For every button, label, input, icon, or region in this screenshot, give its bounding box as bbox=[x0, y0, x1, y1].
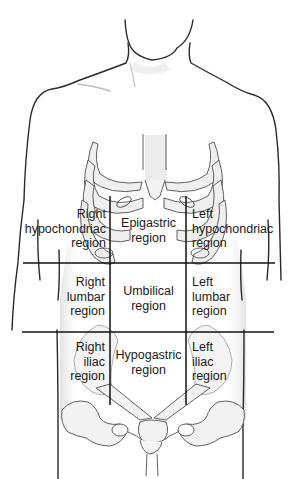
abdominal-regions-diagram: Right hypochondriac region Epigastric re… bbox=[0, 0, 307, 479]
label-umbilical: Umbilical region bbox=[111, 284, 186, 313]
label-left-iliac: Left iliac region bbox=[192, 340, 262, 384]
label-epigastric: Epigastric region bbox=[111, 216, 186, 245]
label-line: Umbilical bbox=[111, 284, 186, 299]
label-line: region bbox=[40, 369, 105, 384]
label-line: lumbar bbox=[192, 290, 262, 305]
label-line: region bbox=[111, 299, 186, 314]
label-line: region bbox=[192, 304, 262, 319]
label-left-lumbar: Left lumbar region bbox=[192, 275, 262, 319]
label-line: Left bbox=[192, 207, 302, 222]
label-line: region bbox=[111, 363, 186, 378]
label-line: region bbox=[40, 304, 105, 319]
label-line: hypochondriac bbox=[14, 222, 106, 237]
label-line: region bbox=[192, 236, 302, 251]
label-left-hypochondriac: Left hypochondriac region bbox=[192, 207, 302, 251]
label-line: region bbox=[14, 236, 106, 251]
label-line: Right bbox=[40, 275, 105, 290]
label-line: Epigastric bbox=[111, 216, 186, 231]
label-line: hypochondriac bbox=[192, 222, 302, 237]
label-line: Right bbox=[14, 207, 106, 222]
label-line: Hypogastric bbox=[111, 348, 186, 363]
label-line: Left bbox=[192, 275, 262, 290]
label-line: Left bbox=[192, 340, 262, 355]
label-line: region bbox=[192, 369, 262, 384]
label-right-iliac: Right iliac region bbox=[40, 340, 105, 384]
label-line: region bbox=[111, 231, 186, 246]
label-hypogastric: Hypogastric region bbox=[111, 348, 186, 377]
label-line: iliac bbox=[40, 355, 105, 370]
label-right-hypochondriac: Right hypochondriac region bbox=[14, 207, 106, 251]
label-line: lumbar bbox=[40, 290, 105, 305]
label-line: iliac bbox=[192, 355, 262, 370]
label-right-lumbar: Right lumbar region bbox=[40, 275, 105, 319]
label-line: Right bbox=[40, 340, 105, 355]
